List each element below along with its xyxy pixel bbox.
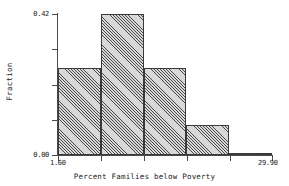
x-tick-minor-3 (187, 156, 188, 161)
y-tick-label-min: 0.00 (0, 151, 52, 159)
y-tick-label-max-wrap: 0.42 (0, 10, 52, 18)
histogram-bar (229, 153, 272, 155)
histogram-bar (144, 68, 187, 155)
y-tick-minor-3 (52, 49, 57, 50)
x-axis-title: Percent Families below Poverty (0, 172, 289, 181)
y-tick-minor-2 (52, 85, 57, 86)
histogram-chart: 0.42 0.00 1.60 29.90 Percent Families be… (0, 0, 289, 186)
bars-layer (58, 14, 272, 155)
x-tick-minor-2 (144, 156, 145, 161)
y-tick-label-min-wrap: 0.00 (0, 151, 52, 159)
histogram-bar (58, 68, 101, 155)
y-tick-label-max: 0.42 (0, 10, 52, 18)
histogram-bar (101, 14, 144, 155)
x-tick-label-max: 29.90 (258, 159, 278, 167)
y-axis-title: Fraction (5, 52, 14, 112)
plot-area (58, 14, 272, 155)
y-tick-minor-1 (52, 120, 57, 121)
y-tick-major-bottom (52, 155, 57, 156)
x-axis-line (57, 155, 273, 156)
x-tick-label-min: 1.60 (50, 159, 66, 167)
histogram-bar (186, 125, 229, 155)
y-tick-major-top (52, 14, 57, 15)
x-tick-minor-1 (101, 156, 102, 161)
x-tick-minor-4 (230, 156, 231, 161)
